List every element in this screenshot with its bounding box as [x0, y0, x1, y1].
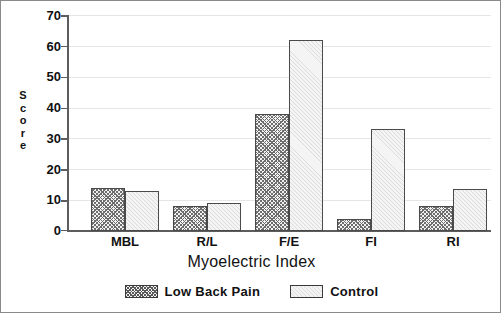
bar-mbl-control	[125, 191, 159, 231]
legend-label-low-back-pain: Low Back Pain	[165, 284, 261, 299]
y-tick-label-40: 40	[31, 101, 61, 114]
bar-chart-figure: S c o r e 70 60 50 40 30 20 10 0	[0, 0, 501, 313]
x-tick-label-rl: R/L	[167, 235, 247, 248]
y-tick-label-10: 10	[31, 193, 61, 206]
bar-rl-low-back-pain	[173, 206, 207, 231]
y-axis-title-letter: S	[15, 89, 31, 102]
bar-ri-low-back-pain	[419, 206, 453, 231]
bar-ri-control	[453, 189, 487, 231]
gridline-70	[68, 15, 491, 16]
chart-legend: Low Back Pain Control	[1, 284, 501, 299]
y-axis-title: S c o r e	[15, 89, 31, 152]
x-tick-label-fe: F/E	[249, 235, 329, 248]
legend-swatch-light-icon	[290, 285, 323, 298]
x-axis-title: Myoelectric Index	[1, 253, 501, 271]
x-tick-label-ri: RI	[413, 235, 493, 248]
y-tick-label-70: 70	[31, 9, 61, 22]
plot-area	[67, 15, 491, 231]
y-axis-title-letter: r	[15, 127, 31, 140]
legend-swatch-hatched-icon	[125, 285, 158, 298]
y-tick-label-20: 20	[31, 163, 61, 176]
gridline-40	[68, 108, 491, 109]
y-tick-label-0: 0	[31, 224, 61, 237]
y-tick-label-60: 60	[31, 40, 61, 53]
y-axis-title-letter: c	[15, 102, 31, 115]
bar-fi-low-back-pain	[337, 219, 371, 231]
y-tick-label-50: 50	[31, 70, 61, 83]
bar-rl-control	[207, 203, 241, 231]
gridline-60	[68, 46, 491, 47]
y-axis-line	[67, 15, 69, 231]
x-tick-label-mbl: MBL	[85, 235, 165, 248]
bar-fi-control	[371, 129, 405, 231]
x-tick-label-fi: FI	[331, 235, 411, 248]
bar-mbl-low-back-pain	[91, 188, 125, 231]
y-axis-title-letter: e	[15, 139, 31, 152]
y-tick-label-30: 30	[31, 132, 61, 145]
bar-fe-low-back-pain	[255, 114, 289, 231]
legend-label-control: Control	[330, 284, 378, 299]
gridline-50	[68, 77, 491, 78]
legend-item-control: Control	[290, 284, 378, 299]
bar-fe-control	[289, 40, 323, 231]
legend-item-low-back-pain: Low Back Pain	[125, 284, 261, 299]
y-axis-title-letter: o	[15, 114, 31, 127]
